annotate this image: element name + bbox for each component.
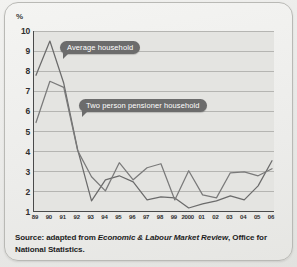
callout-pensioner-household-label: Two person pensioner household <box>86 101 200 110</box>
x-axis-tick-label: 97 <box>143 214 149 220</box>
chart-figure: % 10987654321 89909192939495969798992000… <box>0 0 297 267</box>
plot-area <box>33 31 274 212</box>
x-axis-tick-label: 95 <box>115 214 121 220</box>
x-axis-tick-label: 89 <box>32 214 38 220</box>
callout-tail-icon <box>63 53 69 59</box>
y-axis-tick-label: 9 <box>8 46 30 56</box>
callout-average-household-label: Average household <box>67 43 133 52</box>
x-axis-tick-label: 90 <box>46 214 52 220</box>
y-axis-tick-label: 5 <box>8 127 30 137</box>
y-axis-tick-label: 6 <box>8 106 30 116</box>
x-axis-tick-label: 91 <box>60 214 66 220</box>
y-axis-tick-label: 2 <box>8 187 30 197</box>
chart-canvas <box>34 31 274 212</box>
x-axis-tick-label: 02 <box>212 214 218 220</box>
x-axis-tick-label: 06 <box>268 214 274 220</box>
x-axis-tick-label: 94 <box>101 214 107 220</box>
series-lines <box>36 41 272 208</box>
callout-tail-icon <box>82 111 88 117</box>
y-axis-tick-label: 8 <box>8 66 30 76</box>
x-axis-tick-label: 92 <box>74 214 80 220</box>
y-axis-tick-label: 10 <box>8 26 30 36</box>
x-axis-tickmarks <box>34 31 272 212</box>
x-axis-tick-label: 99 <box>171 214 177 220</box>
source-prefix: Source: adapted from <box>15 233 98 242</box>
x-axis-tick-label: 03 <box>226 214 232 220</box>
x-axis-tick-label: 05 <box>254 214 260 220</box>
source-note: Source: adapted from Economic & Labour M… <box>15 232 281 255</box>
x-axis-tick-label: 98 <box>157 214 163 220</box>
x-axis-tick-label: 2000 <box>181 214 194 220</box>
y-axis-tick-label: 1 <box>8 207 30 217</box>
x-axis-tick-label: 96 <box>129 214 135 220</box>
source-publication: Economic & Labour Market Review <box>98 233 228 242</box>
callout-pensioner-household: Two person pensioner household <box>79 99 207 112</box>
gridlines <box>34 31 274 212</box>
y-axis-tick-label: 7 <box>8 86 30 96</box>
callout-average-household: Average household <box>60 41 140 54</box>
y-axis-tick-label: 3 <box>8 167 30 177</box>
x-axis-tick-label: 01 <box>198 214 204 220</box>
y-axis-ticks: 10987654321 <box>4 31 30 212</box>
figure-inner: % 10987654321 89909192939495969798992000… <box>0 0 297 267</box>
y-axis-tick-label: 4 <box>8 147 30 157</box>
x-axis-tick-label: 93 <box>87 214 93 220</box>
y-axis-unit-label: % <box>16 12 23 21</box>
x-axis-tick-label: 04 <box>240 214 246 220</box>
x-axis-ticks: 89909192939495969798992000010203040506 <box>33 214 275 228</box>
